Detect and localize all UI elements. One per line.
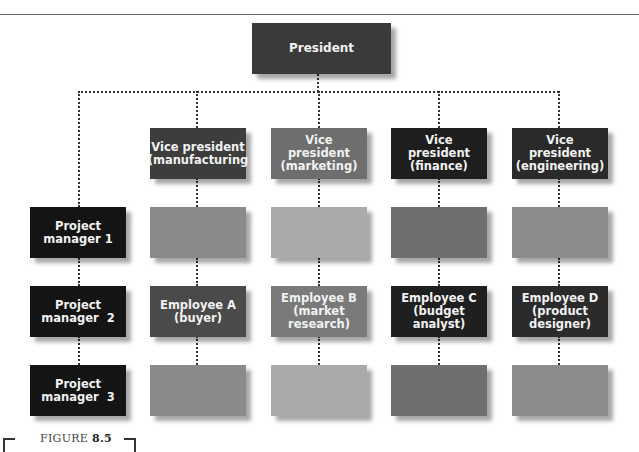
connector-pm2-pm3: [78, 336, 80, 365]
matrix-cell-r1-c4: [512, 207, 608, 258]
connector-col3-a: [438, 178, 440, 207]
matrix-cell-r1-c1: [150, 207, 246, 258]
node-employee-b: Employee B (market research): [271, 286, 367, 337]
node-label: Employee B (market research): [273, 292, 365, 331]
node-label: Employee A (buyer): [152, 299, 244, 325]
node-employee-d: Employee D (product designer): [512, 286, 608, 337]
bracket-left-icon: [3, 438, 15, 452]
node-label: Project manager 1: [32, 220, 124, 246]
matrix-cell-r3-c4: [512, 365, 608, 416]
matrix-cell-r3-c3: [391, 365, 487, 416]
bracket-right-icon: [124, 438, 136, 452]
node-president: President: [252, 23, 391, 74]
matrix-cell-r3-c2: [271, 365, 367, 416]
connector-col1-b: [196, 258, 198, 286]
connector-col4-a: [558, 178, 560, 207]
connector-col1-a: [196, 178, 198, 207]
connector-col2-c: [318, 336, 320, 365]
node-employee-a: Employee A (buyer): [150, 286, 246, 337]
node-vp-engineering: Vice president (engineering): [512, 128, 608, 179]
node-employee-c: Employee C (budget analyst): [391, 286, 487, 337]
node-label: Employee D (product designer): [514, 292, 606, 331]
connector-pm-bus: [78, 91, 80, 207]
matrix-cell-r1-c3: [391, 207, 487, 258]
connector-pm1-pm2: [78, 258, 80, 286]
connector-col2-b: [318, 258, 320, 286]
node-label: Project manager 2: [32, 299, 124, 325]
connector-vp1: [196, 91, 198, 128]
connector-vp2: [318, 91, 320, 128]
node-label: President: [289, 42, 354, 55]
matrix-cell-r3-c1: [150, 365, 246, 416]
matrix-cell-r1-c2: [271, 207, 367, 258]
top-rule: [0, 14, 639, 15]
node-project-manager-3: Project manager 3: [30, 365, 126, 416]
node-project-manager-2: Project manager 2: [30, 286, 126, 337]
node-label: Vice president (finance): [393, 134, 485, 173]
node-vp-marketing: Vice president (marketing): [271, 128, 367, 179]
node-label: Vice president (engineering): [514, 134, 606, 173]
connector-col4-c: [558, 336, 560, 365]
connector-col3-b: [438, 258, 440, 286]
node-label: Project manager 3: [32, 378, 124, 404]
figure-caption: FIGURE 8.5: [0, 428, 140, 450]
connector-col1-c: [196, 336, 198, 365]
node-label: Vice president (marketing): [273, 134, 365, 173]
node-label: Employee C (budget analyst): [393, 292, 485, 331]
node-project-manager-1: Project manager 1: [30, 207, 126, 258]
node-vp-finance: Vice president (finance): [391, 128, 487, 179]
connector-col4-b: [558, 258, 560, 286]
figure-label: FIGURE 8.5: [40, 432, 112, 445]
node-vp-manufacturing: Vice president (manufacturing: [150, 128, 246, 179]
connector-vp3: [438, 91, 440, 128]
connector-vp4: [558, 91, 560, 128]
connector-president-down: [317, 74, 319, 92]
node-label: Vice president (manufacturing: [148, 141, 249, 167]
connector-col2-a: [318, 178, 320, 207]
connector-col3-c: [438, 336, 440, 365]
